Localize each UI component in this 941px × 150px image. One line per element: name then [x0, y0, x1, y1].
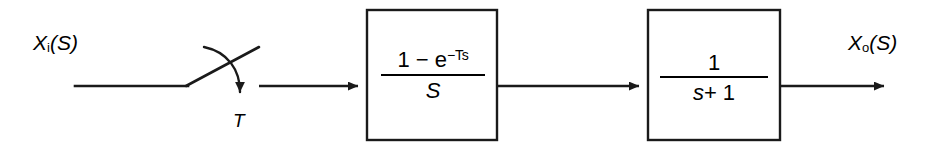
input-signal-label: Xi(S)	[33, 32, 78, 54]
input-label-arg: (S)	[50, 31, 78, 54]
plant-denominator-variable: s	[693, 80, 704, 105]
input-label-base: X	[33, 31, 47, 54]
zoh-numerator-exponent: −Ts	[447, 47, 469, 63]
block-diagram-canvas: Xi(S) Xo(S) T 1 − e−Ts S 1 s+ 1	[0, 0, 941, 150]
zoh-numerator: 1 − e−Ts	[381, 48, 485, 73]
plant-denominator: s+ 1	[660, 80, 768, 104]
zoh-numerator-prefix: 1 − e	[397, 47, 447, 72]
output-label-arg: (S)	[869, 31, 897, 54]
sampler-actuation-arc	[204, 47, 240, 92]
plant-fraction-bar	[660, 76, 768, 78]
zoh-denominator: S	[381, 78, 485, 102]
output-label-base: X	[848, 31, 862, 54]
first-order-plant-expression: 1 s+ 1	[660, 51, 768, 105]
plant-numerator: 1	[660, 51, 768, 75]
sampling-period-label: T	[233, 111, 245, 130]
zero-order-hold-expression: 1 − e−Ts S	[381, 48, 485, 102]
sampler-blade	[186, 47, 259, 86]
plant-denominator-rest: + 1	[704, 80, 735, 105]
output-signal-label: Xo(S)	[848, 32, 897, 54]
zoh-fraction-bar	[381, 74, 485, 76]
